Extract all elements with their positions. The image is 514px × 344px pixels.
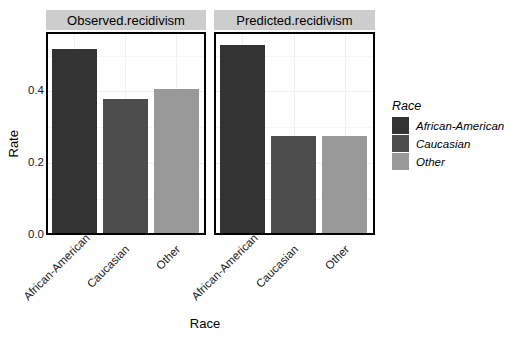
bar-predicted-other xyxy=(322,136,367,234)
panel-observed-recidivism xyxy=(46,32,206,235)
y-tick-label-0.2: 0.2 xyxy=(2,156,44,168)
facet-strip-observed-recidivism: Observed.recidivism xyxy=(46,10,206,30)
legend-swatch-other xyxy=(392,153,409,170)
x-axis-title: Race xyxy=(0,316,410,331)
bar-predicted-african-american xyxy=(220,45,265,234)
panel-predicted-recidivism xyxy=(214,32,375,235)
facet-strip-label: Predicted.recidivism xyxy=(236,13,352,28)
facet-bar-chart: Rate 0.4 0.2 0.0 Observed.recidivism Pre… xyxy=(0,0,514,344)
legend-swatch-african-american xyxy=(392,117,409,134)
legend-item-african-american: African-American xyxy=(392,117,504,134)
gridline-y-0.0 xyxy=(48,234,204,235)
bar-predicted-caucasian xyxy=(271,136,316,234)
legend-item-caucasian: Caucasian xyxy=(392,135,504,152)
bar-observed-caucasian xyxy=(103,99,148,234)
facet-strip-label: Observed.recidivism xyxy=(67,13,185,28)
legend-label-other: Other xyxy=(416,156,445,168)
y-tick-label-0.4: 0.4 xyxy=(2,84,44,96)
y-tick-label-0.0: 0.0 xyxy=(2,228,44,240)
legend: Race African-American Caucasian Other xyxy=(392,99,504,171)
x-tick-label-panel1-other: Other xyxy=(123,243,182,302)
legend-label-african-american: African-American xyxy=(416,120,504,132)
panel-plot-area xyxy=(48,34,204,233)
legend-item-other: Other xyxy=(392,153,504,170)
facet-strip-predicted-recidivism: Predicted.recidivism xyxy=(214,10,375,30)
bar-observed-african-american xyxy=(52,49,97,234)
legend-title: Race xyxy=(392,99,504,113)
panel-plot-area xyxy=(216,34,373,233)
x-tick-label-panel2-african-american: African-American xyxy=(189,243,248,302)
bar-observed-other xyxy=(154,89,199,234)
legend-label-caucasian: Caucasian xyxy=(416,138,470,150)
x-tick-label-panel2-other: Other xyxy=(292,243,351,302)
legend-swatch-caucasian xyxy=(392,135,409,152)
gridline-y-0.0 xyxy=(216,234,373,235)
